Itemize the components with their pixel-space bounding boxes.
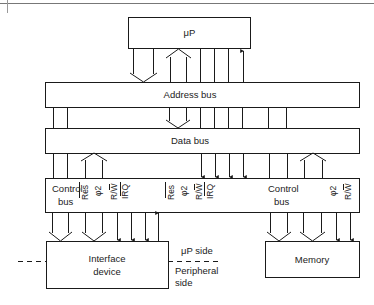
signal-rw-left: R/W — [109, 183, 119, 200]
memory-label: Memory — [295, 254, 330, 265]
signal-rw-right: R/W — [343, 183, 353, 200]
data-control-up-bus-arrow-left — [81, 153, 107, 178]
signal-rw-mid: R/W — [194, 183, 204, 200]
signal-res-mid: Res — [166, 185, 176, 200]
address-up-up-bus-arrow — [166, 49, 191, 82]
data-control-up-bus-arrow-right — [300, 153, 326, 178]
interface-device-block — [47, 242, 169, 289]
up-address-down-bus-arrow — [130, 48, 157, 82]
address-data-bus-arrow — [166, 107, 190, 128]
control-bus-left-label-2: bus — [58, 196, 74, 207]
signal-res-left: Res — [80, 185, 90, 200]
signal-irq-mid: IRQ — [205, 184, 215, 200]
signal-phi2-mid: φ2 — [179, 185, 189, 196]
signal-phi2-right: φ2 — [328, 185, 338, 196]
address-bus-label: Address bus — [164, 89, 217, 100]
interface-device-label-2: device — [93, 266, 120, 277]
control-bus-right-label-2: bus — [274, 196, 290, 207]
control-interface-bus-arrow — [82, 212, 106, 241]
microprocessor-label: μP — [184, 27, 196, 38]
bus-diagram: μP Address bus Data bus Control bus Res … — [0, 0, 374, 305]
control-bus-right-label: Control — [268, 183, 299, 194]
signal-phi2-left: φ2 — [93, 185, 103, 196]
peripheral-side-annotation-2: side — [175, 277, 192, 288]
data-bus-label: Data bus — [171, 135, 209, 146]
up-side-annotation: μP side — [181, 245, 213, 256]
control-memory-bus-arrow — [300, 212, 325, 241]
peripheral-side-annotation: Peripheral — [175, 265, 218, 276]
control-interface-bus-arrow — [49, 212, 72, 241]
control-memory-bus-arrow — [267, 212, 291, 241]
signal-irq-left: IRQ — [120, 184, 130, 200]
control-bus-left-label: Control — [52, 183, 83, 194]
interface-device-label: Interface — [89, 253, 126, 264]
